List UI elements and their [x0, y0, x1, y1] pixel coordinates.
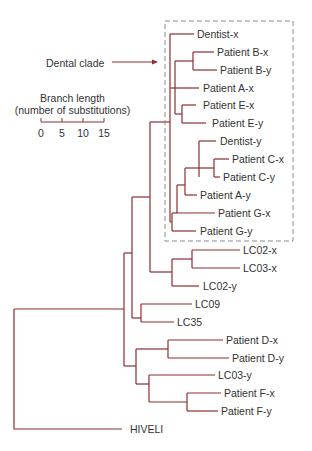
leaf-label: Patient C-x — [232, 153, 284, 165]
leaf-label: Patient G-y — [200, 225, 253, 237]
arrow-head-icon — [152, 60, 158, 65]
leaf-label: Patient E-x — [203, 99, 254, 111]
tree-branch — [14, 309, 122, 429]
annotation-arrow — [112, 60, 158, 65]
leaf-label: Patient D-y — [232, 352, 284, 364]
dental-clade-label: Dental clade — [46, 57, 104, 69]
leaf-label: LC02-x — [243, 244, 277, 256]
leaf-label: Patient B-y — [220, 64, 271, 76]
scale-bar-title: Branch length — [13, 92, 133, 104]
leaf-label: HIVELI — [130, 423, 163, 435]
leaf-label: Dentist-x — [197, 28, 238, 40]
leaf-label: Dentist-y — [220, 135, 261, 147]
leaf-label: Patient D-x — [226, 334, 278, 346]
leaf-label: Patient F-y — [221, 405, 272, 417]
leaf-label: Patient C-y — [223, 171, 275, 183]
scale-bar — [41, 118, 104, 122]
leaf-label: LC35 — [177, 316, 202, 328]
scale-tick-label: 10 — [77, 127, 89, 139]
scale-bar-subtitle: (number of substitutions) — [3, 104, 143, 116]
leaf-label: Patient E-y — [212, 117, 263, 129]
leaf-label: Patient F-x — [224, 387, 275, 399]
leaf-label: LC03-y — [218, 369, 252, 381]
leaf-label: LC03-x — [243, 262, 277, 274]
leaf-label: Patient G-x — [218, 207, 271, 219]
leaf-label: LC02-y — [203, 280, 237, 292]
scale-tick-label: 0 — [38, 127, 44, 139]
leaf-label: Patient A-x — [203, 82, 254, 94]
leaf-label: Patient A-y — [200, 189, 251, 201]
scale-tick-label: 5 — [59, 127, 65, 139]
leaf-label: LC09 — [195, 298, 220, 310]
leaf-label: Patient B-x — [217, 46, 268, 58]
scale-tick-label: 15 — [98, 127, 110, 139]
